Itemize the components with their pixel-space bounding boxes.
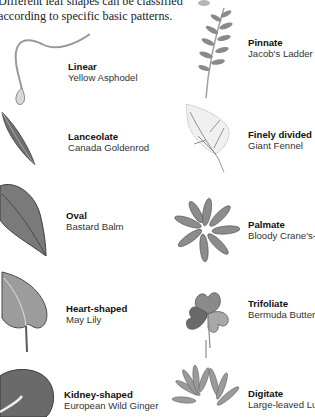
leaf-species: Giant Fennel [248, 140, 312, 151]
leaf-species: Bermuda Buttercup [248, 309, 315, 320]
leaf-shape-name: Oval [66, 210, 124, 221]
leaf-shape-name: Heart-shaped [66, 303, 127, 314]
leaf-species: Yellow Asphodel [68, 72, 138, 83]
leaf-label-heart-shaped: Heart-shaped May Lily [66, 303, 127, 325]
lanceolate-leaf-icon [0, 110, 40, 166]
leaf-shape-name: Digitate [248, 388, 315, 399]
finely-divided-leaf-icon [184, 104, 240, 174]
leaf-species: European Wild Ginger [64, 400, 158, 411]
leaf-shape-name: Pinnate [248, 37, 313, 48]
leaf-shape-name: Lanceolate [68, 131, 149, 142]
leaf-label-oval: Oval Bastard Balm [66, 210, 124, 232]
leaf-shape-name: Palmate [248, 219, 315, 230]
leaf-label-kidney-shaped: Kidney-shaped European Wild Ginger [64, 389, 158, 411]
leaf-label-digitate: Digitate Large-leaved Lupin [248, 388, 315, 410]
trifoliate-leaf-icon [184, 288, 240, 348]
palmate-leaf-icon [174, 196, 240, 262]
leaf-shape-name: Linear [68, 61, 138, 72]
leaf-label-trifoliate: Trifoliate Bermuda Buttercup [248, 298, 315, 320]
intro-line-2: according to specific basic patterns. [0, 9, 198, 24]
leaf-shape-name: Kidney-shaped [64, 389, 158, 400]
leaf-species: Large-leaved Lupin [248, 399, 315, 410]
heart-shaped-leaf-icon [0, 268, 50, 352]
leaf-label-pinnate: Pinnate Jacob's Ladder [248, 37, 313, 59]
leaf-species: Canada Goldenrod [68, 142, 149, 153]
leaf-species: Jacob's Ladder [248, 48, 313, 59]
leaf-species: May Lily [66, 314, 127, 325]
leaf-label-lanceolate: Lanceolate Canada Goldenrod [68, 131, 149, 153]
intro-line-1: Different leaf shapes can be classified [0, 0, 198, 9]
leaf-shape-name: Trifoliate [248, 298, 315, 309]
digitate-leaf-icon [168, 340, 244, 417]
intro-text: Different leaf shapes can be classified … [0, 0, 198, 24]
leaf-species: Bloody Crane's-bill [248, 230, 315, 241]
leaf-label-finely-divided: Finely divided Giant Fennel [248, 129, 312, 151]
leaf-label-linear: Linear Yellow Asphodel [68, 61, 138, 83]
leaf-label-palmate: Palmate Bloody Crane's-bill [248, 219, 315, 241]
leaf-species: Bastard Balm [66, 221, 124, 232]
pinnate-leaf-icon [196, 0, 236, 100]
kidney-shaped-leaf-icon [0, 366, 56, 417]
leaf-shape-name: Finely divided [248, 129, 312, 140]
oval-leaf-icon [0, 180, 48, 256]
